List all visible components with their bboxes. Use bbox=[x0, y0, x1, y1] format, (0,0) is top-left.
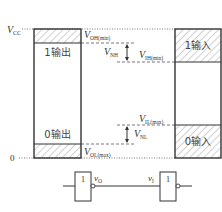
load-input-label: vI bbox=[148, 173, 154, 184]
vnl-arrow-icon bbox=[125, 126, 129, 143]
vnh-arrow-icon bbox=[125, 44, 129, 61]
load-gate-symbol: 1 bbox=[166, 175, 170, 184]
input-high-label: 1输入 bbox=[185, 39, 211, 51]
inversion-bubble-icon bbox=[176, 184, 180, 188]
driver-inverter-gate: 1 vO bbox=[63, 172, 160, 201]
output-high-region bbox=[34, 29, 81, 43]
driver-output-label: vO bbox=[94, 173, 102, 184]
output-low-region bbox=[34, 144, 81, 158]
inversion-bubble-icon bbox=[91, 184, 95, 188]
noise-margin-diagram: 1输出 0输出 1输入 0输入 VCC 0 VOH(min) VIH(min) … bbox=[0, 0, 222, 212]
output-high-label: 1输出 bbox=[44, 46, 70, 58]
driver-gate-symbol: 1 bbox=[81, 175, 85, 184]
vnh-label: VNH bbox=[104, 46, 118, 58]
voh-min-label: VOH(min) bbox=[84, 29, 110, 42]
vol-max-label: VOL(max) bbox=[84, 146, 111, 159]
vcc-label: VCC bbox=[7, 24, 21, 36]
zero-label: 0 bbox=[10, 153, 15, 163]
input-low-label: 0输入 bbox=[185, 135, 211, 147]
vih-min-label: VIH(min) bbox=[139, 49, 163, 62]
vnl-label: VNL bbox=[134, 128, 148, 140]
output-low-label: 0输出 bbox=[44, 128, 70, 140]
vil-max-label: VIL(max) bbox=[139, 113, 164, 126]
